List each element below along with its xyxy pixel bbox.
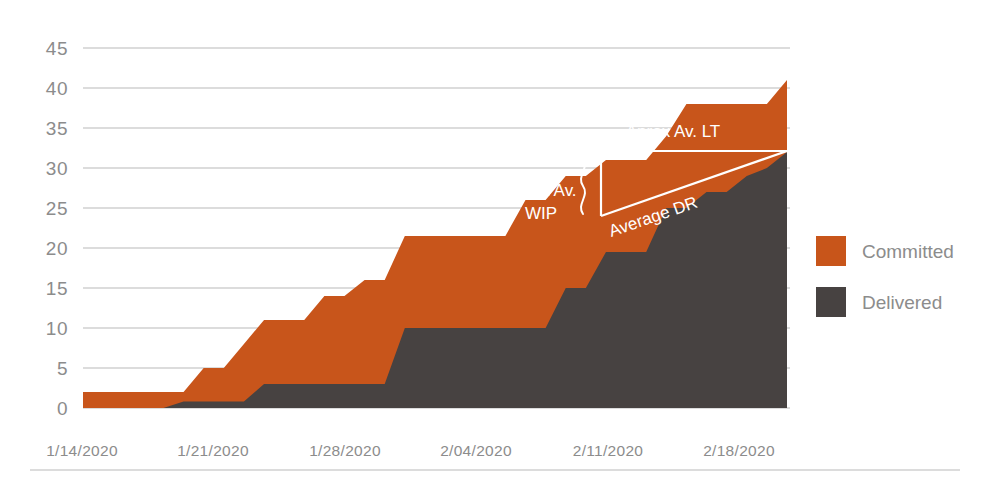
y-tick-30: 30 [46,158,68,179]
aprox-av-wip-label-line1: Aprox Av. [505,181,576,200]
x-tick-5: 2/18/2020 [703,442,775,459]
x-tick-1: 1/21/2020 [177,442,249,459]
y-tick-10: 10 [46,318,68,339]
y-tick-40: 40 [46,78,68,99]
y-tick-20: 20 [46,238,68,259]
chart-canvas: 45 40 35 30 25 20 15 10 5 0 Aprox Av. LT… [0,0,998,492]
x-tick-2: 1/28/2020 [309,442,381,459]
y-tick-35: 35 [46,118,68,139]
legend-label-delivered: Delivered [862,292,942,313]
legend-swatch-delivered [816,287,846,317]
legend-swatch-committed [816,236,846,266]
x-tick-0: 1/14/2020 [46,442,118,459]
legend-item-committed[interactable]: Committed [816,236,954,266]
legend-item-delivered[interactable]: Delivered [816,287,942,317]
y-tick-5: 5 [57,358,68,379]
y-tick-15: 15 [46,278,68,299]
y-tick-0: 0 [57,398,68,419]
y-tick-45: 45 [46,38,68,59]
x-tick-4: 2/11/2020 [573,442,644,459]
aprox-av-wip-label-line2: WIP [525,204,557,223]
cumulative-flow-diagram: 45 40 35 30 25 20 15 10 5 0 Aprox Av. LT… [0,0,998,492]
legend-label-committed: Committed [862,241,954,262]
aprox-av-lt-label: Aprox Av. LT [626,122,721,141]
y-tick-25: 25 [46,198,68,219]
x-tick-3: 2/04/2020 [440,442,512,459]
